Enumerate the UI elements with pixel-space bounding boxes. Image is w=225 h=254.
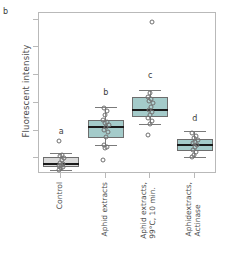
x-tick-label: Aphid extracts bbox=[101, 182, 110, 236]
x-tick-mark bbox=[149, 173, 150, 178]
panel-label: b bbox=[3, 7, 8, 16]
x-tick-label: Aphid extracts,99°C, 10 min. bbox=[140, 182, 157, 239]
plot-panel: abcd bbox=[38, 12, 216, 173]
x-tick-label-line1: Aphid extracts bbox=[100, 182, 109, 236]
data-point bbox=[190, 130, 195, 135]
x-tick-mark bbox=[194, 173, 195, 178]
x-tick-label: Control bbox=[56, 182, 65, 209]
x-tick-label-line1: Aphidextracts, bbox=[184, 182, 193, 236]
boxplot-figure: b Fluorescent intensity 1.01.52.02.53.03… bbox=[0, 0, 225, 254]
x-tick-mark bbox=[60, 173, 61, 178]
x-tick-label-line2: Actinase bbox=[193, 182, 202, 236]
boxplot-group[interactable]: d bbox=[39, 13, 215, 172]
y-axis-label: Fluorescent intensity bbox=[21, 11, 31, 171]
significance-letter: d bbox=[192, 114, 197, 123]
whisker-cap-upper bbox=[184, 131, 206, 132]
x-tick-mark bbox=[105, 173, 106, 178]
x-tick-label-line2: 99°C, 10 min. bbox=[149, 182, 158, 239]
x-tick-label-line1: Control bbox=[55, 182, 64, 209]
x-tick-label: Aphidextracts,Actinase bbox=[185, 182, 202, 236]
